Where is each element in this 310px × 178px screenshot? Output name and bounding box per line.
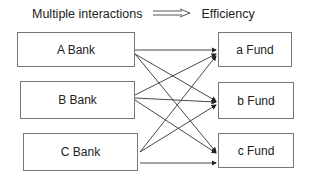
connection-arrow-a-bank-to-b-fund	[135, 54, 216, 101]
connection-lines	[0, 0, 310, 178]
connection-arrow-b-bank-to-b-fund	[135, 98, 216, 102]
connection-arrow-b-bank-to-a-fund	[135, 54, 216, 95]
connection-arrow-b-bank-to-c-fund	[135, 100, 216, 153]
connection-arrow-a-bank-to-c-fund	[135, 54, 216, 152]
connection-arrow-c-bank-to-b-fund	[140, 105, 216, 152]
